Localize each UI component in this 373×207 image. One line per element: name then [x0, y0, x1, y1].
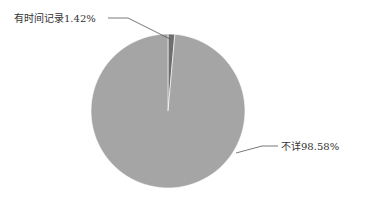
label-unknown: 不详98.58% — [281, 140, 339, 152]
label-time-recorded: 有时间记录1.42% — [14, 12, 96, 24]
pie-chart: 有时间记录1.42% 不详98.58% — [0, 0, 373, 207]
pie-slices — [91, 34, 245, 188]
leader-line-2 — [236, 146, 278, 153]
pie-slice-2 — [91, 34, 245, 188]
